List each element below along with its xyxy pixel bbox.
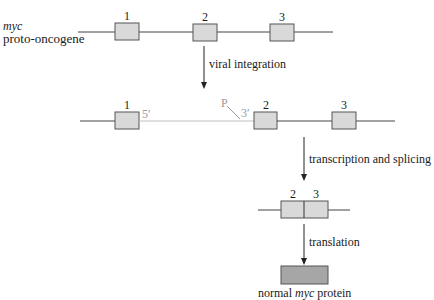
step-label-translation: translation: [309, 236, 360, 248]
exon-2-row1: [193, 24, 217, 41]
exon-1-row2: [115, 112, 139, 129]
protein-label-prefix: normal: [258, 286, 292, 300]
arrowhead-icon: [301, 174, 307, 181]
promoter-pointer: [227, 106, 240, 119]
gene-type: proto-oncogene: [3, 33, 85, 45]
exon-3-row1: [270, 24, 294, 41]
arrowhead-icon: [201, 82, 207, 89]
protein-label: normal myc protein: [258, 287, 351, 299]
protein-label-gene: myc: [295, 286, 314, 300]
arrowhead-icon: [301, 258, 307, 265]
step-label-transcription: transcription and splicing: [309, 153, 431, 165]
three-prime-label: 3′: [241, 107, 250, 119]
exon-number: 2: [254, 99, 278, 111]
exon-number: 3: [304, 188, 328, 200]
exon-number: 3: [270, 11, 294, 23]
exon-number: 2: [281, 188, 305, 200]
exon-2-row2: [254, 112, 277, 129]
exon-number: 1: [115, 10, 139, 22]
protein-box: [281, 266, 328, 284]
five-prime-label: 5′: [142, 108, 151, 120]
exon-3-row2: [332, 112, 356, 129]
promoter-label: P: [221, 97, 228, 109]
exon-number: 1: [115, 99, 139, 111]
protein-label-suffix: protein: [317, 286, 351, 300]
step-label-viral-integration: viral integration: [209, 58, 286, 70]
exon-number: 3: [332, 99, 356, 111]
exon-1-row1: [115, 23, 139, 40]
exon-number: 2: [193, 11, 217, 23]
